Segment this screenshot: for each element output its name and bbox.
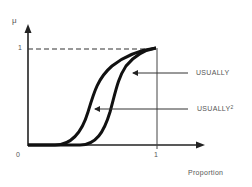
y-axis: [25, 24, 32, 146]
curve-usually: [28, 48, 156, 145]
origin-label: 0: [16, 151, 20, 158]
x-axis-arrow-icon: [196, 142, 205, 149]
membership-function-diagram: [0, 0, 252, 187]
label-usually: USUALLY: [196, 69, 229, 76]
y-axis-label: μ: [12, 16, 17, 25]
x-axis-label: Proportion: [188, 169, 223, 176]
x-tick-one: 1: [154, 151, 158, 158]
label-usually-squared-base: USUALLY: [197, 105, 230, 112]
y-tick-one: 1: [18, 44, 22, 51]
label-usually-squared-exponent: 2: [230, 104, 233, 110]
y-axis-arrow-icon: [25, 24, 32, 33]
label-usually-squared: USUALLY2: [197, 105, 234, 112]
